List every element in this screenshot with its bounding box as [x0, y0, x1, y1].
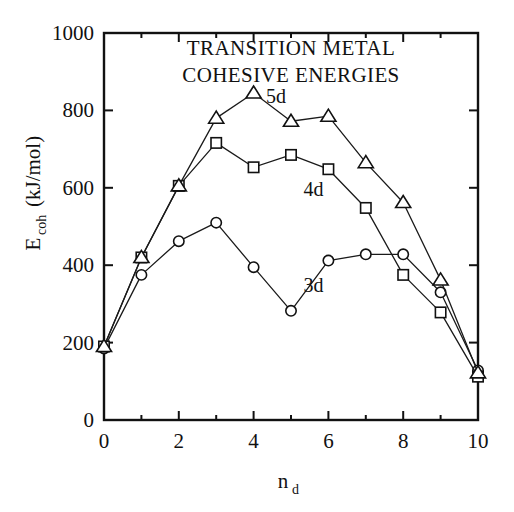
data-point-marker-square — [286, 150, 296, 160]
x-tick-label: 10 — [468, 429, 489, 453]
x-axis-title-base: n — [278, 469, 289, 493]
y-axis-title-units: (kJ/mol) — [21, 136, 45, 207]
y-tick-label: 400 — [63, 253, 95, 277]
data-point-marker-circle — [211, 217, 221, 227]
x-tick-label: 2 — [174, 429, 185, 453]
chart-figure: 0246810 02004006008001000 3d4d5d TRANSIT… — [0, 0, 514, 512]
y-tick-label: 1000 — [52, 21, 94, 45]
data-point-marker-circle — [136, 270, 146, 280]
data-point-marker-circle — [398, 249, 408, 259]
y-tick-label: 0 — [84, 408, 95, 432]
y-tick-label: 600 — [63, 176, 95, 200]
chart-title-line-2: COHESIVE ENERGIES — [182, 63, 399, 87]
x-tick-label: 8 — [398, 429, 409, 453]
series-label-5d: 5d — [266, 85, 286, 107]
data-point-marker-circle — [248, 262, 258, 272]
x-tick-label: 4 — [248, 429, 259, 453]
data-point-marker-square — [398, 270, 408, 280]
data-point-marker-square — [248, 162, 258, 172]
data-point-marker-circle — [174, 236, 184, 246]
x-axis-title-subscript: d — [292, 482, 299, 497]
series-label-3d: 3d — [303, 274, 323, 296]
series-label-4d: 4d — [303, 178, 323, 200]
cohesive-energy-line-chart: 0246810 02004006008001000 3d4d5d TRANSIT… — [0, 0, 514, 512]
data-point-marker-circle — [361, 249, 371, 259]
data-point-marker-circle — [286, 306, 296, 316]
x-tick-label: 0 — [99, 429, 110, 453]
y-tick-label: 200 — [63, 331, 95, 355]
y-axis-title-base: E — [21, 238, 45, 251]
data-point-marker-square — [323, 164, 333, 174]
x-tick-label: 6 — [323, 429, 334, 453]
data-point-marker-square — [435, 307, 445, 317]
data-point-marker-square — [211, 138, 221, 148]
data-point-marker-circle — [323, 255, 333, 265]
y-axis-title-subscript: coh — [34, 215, 49, 235]
data-point-marker-square — [361, 203, 371, 213]
chart-title-line-1: TRANSITION METAL — [187, 36, 395, 60]
y-tick-label: 800 — [63, 98, 95, 122]
